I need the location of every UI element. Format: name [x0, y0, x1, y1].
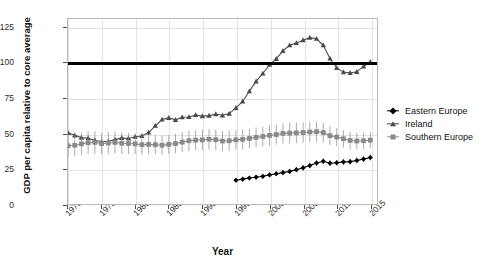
legend-item-eastern-europe[interactable]: Eastern Europe — [386, 104, 473, 117]
x-axis-tick-mark — [236, 205, 237, 209]
chart-root: GDP per capita relative to core average … — [0, 0, 500, 274]
legend-item-ireland[interactable]: Ireland — [386, 117, 473, 130]
y-axis-tick-label: 50 — [5, 129, 14, 139]
y-axis-tick-label: 75 — [5, 93, 14, 103]
x-axis-tick-mark — [202, 205, 203, 209]
y-axis-tick-label: 100 — [0, 57, 14, 67]
x-axis-tick-mark — [67, 205, 68, 209]
legend-item-label: Eastern Europe — [405, 106, 468, 116]
x-axis-tick-mark — [168, 205, 169, 209]
diamond-marker-icon — [386, 105, 400, 116]
x-axis-tick-mark — [270, 205, 271, 209]
x-axis-tick-mark — [371, 205, 372, 209]
legend: Eastern EuropeIrelandSouthern Europe — [386, 104, 473, 143]
plot-area — [67, 18, 378, 205]
x-axis-tick-mark — [135, 205, 136, 209]
data-series-layer — [68, 19, 377, 204]
y-axis-tick-label: 25 — [5, 164, 14, 174]
x-axis-title: Year — [0, 246, 445, 257]
x-axis-tick-mark — [101, 205, 102, 209]
reference-line-100 — [68, 62, 377, 65]
triangle-marker-icon — [386, 118, 400, 129]
series-ireland — [67, 35, 373, 144]
series-eastern-europe — [233, 155, 373, 183]
y-axis-tick-label: 125 — [0, 22, 14, 32]
square-marker-icon — [386, 131, 400, 142]
y-axis-title: GDP per capita relative to core average — [21, 6, 32, 206]
x-axis-tick-mark — [304, 205, 305, 209]
x-axis-tick-mark — [337, 205, 338, 209]
legend-item-label: Ireland — [405, 119, 433, 129]
legend-item-label: Southern Europe — [405, 132, 473, 142]
y-axis-tick-label: 0 — [9, 200, 14, 210]
legend-item-southern-europe[interactable]: Southern Europe — [386, 130, 473, 143]
series-southern-europe — [67, 122, 373, 157]
